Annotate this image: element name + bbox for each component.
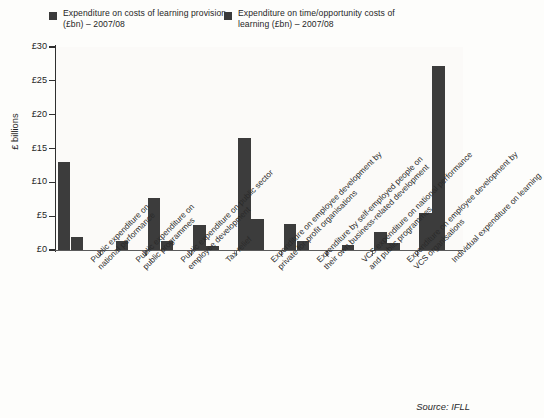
legend-entry-time-opportunity: Expenditure on time/opportunity costs of… <box>224 8 424 30</box>
legend-label-time-opportunity: Expenditure on time/opportunity costs of… <box>238 8 424 30</box>
legend-entry-learning-provision: Expenditure on costs of learning provisi… <box>49 8 229 30</box>
y-axis-title: £ billions <box>9 97 20 167</box>
bar-time-opportunity <box>251 219 264 250</box>
y-axis-tick <box>49 46 55 47</box>
legend-square-icon <box>49 12 57 20</box>
y-axis-tick-label: £25 <box>0 75 47 85</box>
bar-provision <box>58 162 71 250</box>
y-axis-tick-label: £20 <box>0 109 47 119</box>
y-axis-tick <box>49 182 55 183</box>
legend-label-learning-provision: Expenditure on costs of learning provisi… <box>63 8 229 30</box>
y-axis-tick <box>49 148 55 149</box>
legend-square-icon <box>224 12 232 20</box>
y-axis-tick-label: £10 <box>0 176 47 186</box>
source-caption: Source: IFLL <box>416 401 470 412</box>
y-axis-tick-label: £5 <box>0 210 47 220</box>
y-axis-tick <box>49 216 55 217</box>
y-axis-tick-label: £15 <box>0 143 47 153</box>
y-axis-tick <box>49 80 55 81</box>
y-axis-tick-label: £30 <box>0 41 47 51</box>
x-axis-category-labels: Public expenditure on national performan… <box>0 250 479 390</box>
bar-time-opportunity <box>71 237 84 250</box>
y-axis-tick <box>49 114 55 115</box>
chart-legend: Expenditure on costs of learning provisi… <box>0 4 479 40</box>
